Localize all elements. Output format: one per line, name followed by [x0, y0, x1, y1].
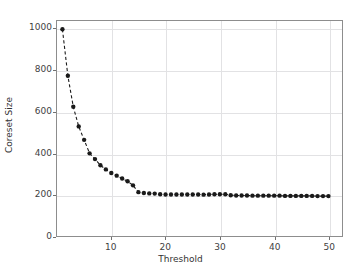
y-tick-label: 800: [35, 65, 52, 74]
data-point-marker: [158, 192, 162, 196]
data-point-marker: [212, 192, 216, 196]
y-tick-label: 0: [46, 232, 52, 241]
data-point-marker: [261, 194, 265, 198]
data-point-marker: [288, 194, 292, 198]
y-tick-label: 600: [35, 107, 52, 116]
data-point-marker: [207, 192, 211, 196]
series-line-coreset-size: [62, 29, 328, 196]
data-point-marker: [82, 138, 86, 142]
data-point-marker: [229, 193, 233, 197]
data-point-marker: [169, 192, 173, 196]
data-point-marker: [136, 190, 140, 194]
data-point-marker: [196, 192, 200, 196]
y-tick-mark: [53, 70, 56, 71]
data-point-marker: [153, 191, 157, 195]
data-point-marker: [115, 173, 119, 177]
y-tick-label: 1000: [29, 23, 52, 32]
y-tick-label-group: 02004006008001000: [20, 0, 52, 271]
data-point-marker: [120, 176, 124, 180]
y-tick-mark: [53, 112, 56, 113]
data-point-marker: [131, 183, 135, 187]
y-tick-mark: [53, 237, 56, 238]
data-point-marker: [201, 192, 205, 196]
data-point-marker: [277, 194, 281, 198]
data-point-marker: [147, 191, 151, 195]
x-tick-mark: [329, 237, 330, 240]
data-point-marker: [185, 192, 189, 196]
data-point-marker: [142, 191, 146, 195]
data-point-marker: [180, 192, 184, 196]
data-point-marker: [66, 74, 70, 78]
data-series-layer: [57, 21, 342, 236]
data-point-marker: [239, 193, 243, 197]
x-tick-mark: [275, 237, 276, 240]
y-tick-mark: [53, 195, 56, 196]
x-tick-label: 20: [160, 243, 171, 252]
x-tick-label: 40: [269, 243, 280, 252]
data-point-marker: [250, 194, 254, 198]
x-tick-mark: [220, 237, 221, 240]
data-point-marker: [315, 194, 319, 198]
data-point-marker: [77, 124, 81, 128]
chart-figure: 02004006008001000 Coreset Size 102030405…: [0, 0, 361, 271]
x-tick-mark: [111, 237, 112, 240]
data-point-marker: [218, 192, 222, 196]
data-point-marker: [104, 167, 108, 171]
y-tick-mark: [53, 28, 56, 29]
data-point-marker: [299, 194, 303, 198]
data-point-marker: [256, 194, 260, 198]
data-point-marker: [283, 194, 287, 198]
data-point-marker: [310, 194, 314, 198]
data-point-marker: [93, 157, 97, 161]
data-point-marker: [109, 171, 113, 175]
data-point-marker: [305, 194, 309, 198]
data-point-marker: [125, 179, 129, 183]
data-point-marker: [321, 194, 325, 198]
data-point-marker: [326, 194, 330, 198]
x-tick-mark: [165, 237, 166, 240]
data-point-marker: [87, 151, 91, 155]
data-point-marker: [245, 193, 249, 197]
data-point-marker: [234, 193, 238, 197]
data-point-marker: [191, 192, 195, 196]
x-tick-label: 30: [214, 243, 225, 252]
x-axis-title: Threshold: [0, 254, 361, 264]
data-point-marker: [71, 105, 75, 109]
data-point-marker: [163, 192, 167, 196]
y-tick-label: 200: [35, 190, 52, 199]
data-point-marker: [174, 192, 178, 196]
y-tick-label: 400: [35, 149, 52, 158]
data-point-marker: [223, 192, 227, 196]
y-axis-title: Coreset Size: [4, 85, 14, 165]
y-tick-mark: [53, 154, 56, 155]
series-markers-coreset-size: [60, 27, 330, 198]
data-point-marker: [267, 194, 271, 198]
data-point-marker: [294, 194, 298, 198]
x-tick-label: 50: [324, 243, 335, 252]
data-point-marker: [60, 27, 64, 31]
data-point-marker: [98, 163, 102, 167]
data-point-marker: [272, 194, 276, 198]
x-tick-label: 10: [105, 243, 116, 252]
plot-area: [56, 20, 343, 237]
